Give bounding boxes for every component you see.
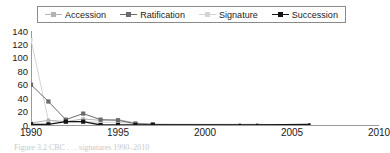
x-axis-tick-label: 2005 — [281, 127, 303, 138]
y-axis-tick-label: 60 — [2, 80, 28, 89]
y-axis-tick-label: 20 — [2, 107, 28, 116]
legend-item-succession[interactable]: Succession — [272, 10, 338, 20]
series-point — [99, 118, 103, 122]
legend-label-signature: Signature — [219, 10, 258, 20]
series-point — [256, 124, 258, 125]
legend-square-accession — [51, 12, 56, 17]
legend-item-signature[interactable]: Signature — [199, 10, 258, 20]
legend-marker-accession — [45, 10, 62, 19]
legend-marker-ratification — [120, 10, 137, 19]
x-axis-tick-label: 1990 — [20, 127, 42, 138]
series-point — [81, 111, 85, 115]
legend-label-accession: Accession — [65, 10, 106, 20]
legend-label-ratification: Ratification — [140, 10, 185, 20]
legend-marker-signature — [199, 10, 216, 19]
x-axis-tick-label: 2000 — [194, 127, 216, 138]
series-point — [116, 123, 120, 125]
plot-area — [31, 31, 379, 125]
series-point — [31, 38, 33, 41]
series-point — [46, 99, 50, 103]
figure-caption: Figure 3.2 CBC . . . signatures 1990–201… — [14, 143, 374, 152]
y-axis-tick-label: 120 — [2, 40, 28, 49]
x-axis-tick-label: 2010 — [368, 127, 390, 138]
y-axis-labels: 140120100806040200 — [0, 31, 28, 126]
y-axis-tick-label: 80 — [2, 67, 28, 76]
legend-square-ratification — [126, 12, 131, 17]
series-line — [31, 122, 309, 125]
legend-label-succession: Succession — [292, 10, 338, 20]
series-point — [133, 123, 137, 125]
series-point — [47, 119, 50, 122]
x-axis-tick-label: 1995 — [107, 127, 129, 138]
series-point — [116, 118, 120, 122]
series-point — [99, 123, 103, 125]
series-point — [308, 123, 310, 125]
legend-item-ratification[interactable]: Ratification — [120, 10, 185, 20]
legend-square-succession — [278, 12, 283, 17]
legend-marker-succession — [272, 10, 289, 19]
x-axis-labels: 19901995200020052010 — [0, 127, 386, 141]
series-point — [64, 120, 68, 124]
series-point — [239, 124, 241, 125]
series-point — [81, 120, 85, 124]
series-ratification — [31, 83, 311, 125]
series-signature — [31, 38, 311, 125]
series-line — [31, 40, 309, 125]
series-point — [31, 83, 33, 87]
y-axis-tick-label: 140 — [2, 27, 28, 36]
series-point — [46, 122, 50, 125]
legend-square-signature — [205, 12, 210, 17]
x-axis-line — [31, 125, 379, 126]
legend-item-accession[interactable]: Accession — [45, 10, 106, 20]
series-canvas — [31, 31, 379, 125]
chart-legend: Accession Ratification Signature Success… — [37, 6, 346, 23]
y-axis-tick-label: 100 — [2, 53, 28, 62]
y-axis-tick-label: 40 — [2, 94, 28, 103]
series-point — [31, 122, 33, 125]
series-point — [151, 123, 155, 125]
series-line — [31, 85, 309, 125]
